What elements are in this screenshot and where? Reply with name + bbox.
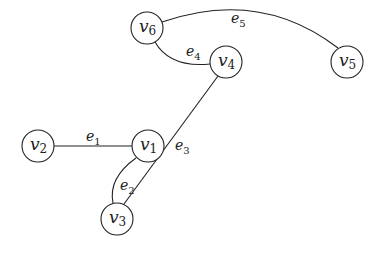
edge-label-e2: e2 [120,177,135,196]
node-v3: v3 [101,203,133,235]
node-v1: v1 [132,130,164,162]
edge-label-e5: e5 [231,10,246,29]
node-v4: v4 [210,46,242,78]
node-v2: v2 [22,130,54,162]
node-v6: v6 [131,12,163,44]
edge-label-e3: e3 [175,137,190,156]
edge-label-e4: e4 [186,43,201,62]
graph-diagram: e1 e2 e3 e4 e5 v1 v2 v3 v4 v5 v6 [0,0,375,257]
node-v5: v5 [331,46,363,78]
edge-label-e1: e1 [86,128,101,147]
edge-e4 [155,42,210,65]
